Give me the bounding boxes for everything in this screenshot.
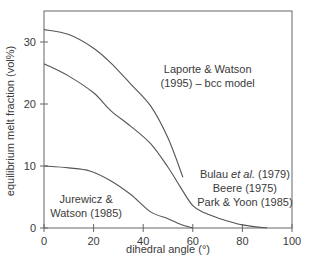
y-tick-label: 10	[24, 160, 36, 172]
laporte-watson-curve	[44, 30, 183, 178]
x-tick-label: 20	[87, 235, 99, 247]
label-laporte-watson: Laporte & Watson(1995) – bcc model	[161, 63, 255, 89]
curve-annotations: Laporte & Watson(1995) – bcc modelBulau …	[50, 63, 292, 219]
y-tick-label: 30	[24, 36, 36, 48]
y-axis-label: equilibrium melt fraction (vol%)	[4, 46, 16, 196]
melt-fraction-chart: 020406080100 0102030 Laporte & Watson(19…	[0, 0, 311, 272]
label-jurewicz-watson: Jurewicz &Watson (1985)	[50, 193, 122, 219]
label-bulau-beere-park: Bulau et al. (1979)Beere (1975)Park & Yo…	[197, 168, 292, 208]
x-tick-label: 100	[283, 235, 301, 247]
y-tick-label: 20	[24, 98, 36, 110]
chart-svg: 020406080100 0102030 Laporte & Watson(19…	[0, 0, 311, 272]
x-tick-label: 0	[41, 235, 47, 247]
x-tick-label: 80	[236, 235, 248, 247]
y-tick-label: 0	[30, 222, 36, 234]
x-axis-label: dihedral angle (°)	[126, 243, 210, 255]
